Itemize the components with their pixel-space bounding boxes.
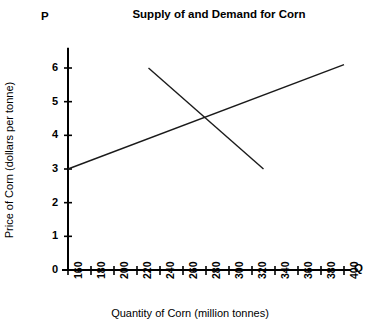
x-tick-label: 360: [303, 261, 313, 279]
series-line-demand: [149, 68, 264, 169]
data-series: [68, 65, 344, 169]
x-tick-label: 380: [326, 261, 336, 279]
x-tick-label: 260: [188, 261, 198, 279]
x-tick-label: 280: [211, 261, 221, 279]
x-tick-label: 200: [119, 261, 129, 279]
x-tick-label: 400: [349, 261, 359, 279]
x-tick-label: 340: [280, 261, 290, 279]
y-tick-label: 1: [44, 230, 58, 241]
axis-ticks: [64, 68, 344, 275]
y-tick-label: 0: [44, 264, 58, 275]
x-axis-label: Quantity of Corn (million tonnes): [40, 307, 340, 319]
axes: [62, 48, 351, 270]
x-tick-label: 160: [73, 261, 83, 279]
y-tick-label: 6: [44, 62, 58, 73]
y-tick-label: 3: [44, 163, 58, 174]
y-tick-label: 2: [44, 197, 58, 208]
y-tick-label: 5: [44, 96, 58, 107]
y-axis-label-text: Price of Corn (dollars per tonne): [3, 60, 15, 260]
y-axis-label: Price of Corn (dollars per tonne): [3, 60, 15, 260]
x-tick-label: 240: [165, 261, 175, 279]
x-tick-label: 220: [142, 261, 152, 279]
x-tick-label: 180: [96, 261, 106, 279]
series-line-supply: [68, 65, 344, 169]
x-tick-label: 320: [257, 261, 267, 279]
y-tick-label: 4: [44, 129, 58, 140]
x-tick-label: 300: [234, 261, 244, 279]
chart-figure: Supply of and Demand for Corn P Q 012345…: [0, 0, 371, 329]
